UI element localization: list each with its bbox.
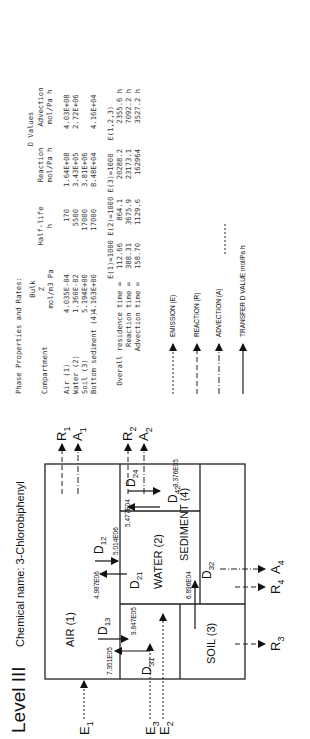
legend-emission: EMISSION (E) [169,295,176,337]
level-iii-diagram-page: Level III Chemical name: 3-Chlorobipheny… [0,0,310,739]
legend-transfer: TRANSFER D VALUE mol/Pa h [239,245,246,337]
legend-graphic [0,0,310,739]
legend-advection: ADVECTION (A) [215,289,222,337]
legend-reaction: REACTION (R) [193,293,200,337]
